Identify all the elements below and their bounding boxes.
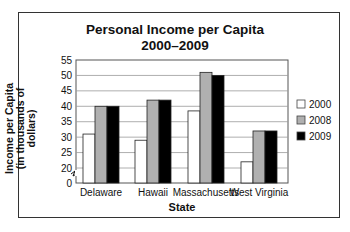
bar-massachusetts-2008: [200, 72, 212, 183]
bar-massachusetts-2000: [188, 111, 200, 183]
bar-hawaii-2008: [147, 100, 159, 183]
y-tick-label: 30: [61, 132, 73, 143]
y-tick-label: 0: [66, 178, 72, 189]
legend-swatch-2000: [297, 100, 305, 108]
legend-swatch-2009: [297, 132, 305, 140]
bar-west-virginia-2009: [265, 131, 277, 183]
y-tick-label: 25: [61, 147, 73, 158]
y-tick-label: 20: [61, 163, 73, 174]
y-tick-label: 55: [61, 55, 73, 66]
x-tick-label: Hawaii: [138, 187, 168, 198]
bar-hawaii-2009: [159, 100, 171, 183]
y-tick-label: 35: [61, 116, 73, 127]
x-axis-title: State: [169, 201, 196, 213]
axis-break-gap: [75, 170, 78, 176]
bar-hawaii-2000: [135, 140, 147, 183]
bar-delaware-2008: [95, 106, 107, 183]
legend-label-2000: 2000: [309, 99, 332, 110]
bar-delaware-2000: [83, 134, 95, 183]
y-tick-label: 40: [61, 101, 73, 112]
legend-label-2008: 2008: [309, 115, 332, 126]
bar-massachusetts-2009: [212, 75, 224, 183]
y-tick-label: 50: [61, 70, 73, 81]
bar-delaware-2009: [107, 106, 119, 183]
y-tick-label: 45: [61, 85, 73, 96]
legend-swatch-2008: [297, 116, 305, 124]
bar-chart: 02025303540455055DelawareHawaiiMassachus…: [0, 0, 350, 232]
bar-west-virginia-2008: [253, 131, 265, 183]
x-tick-label: Delaware: [80, 187, 123, 198]
x-tick-label: West Virginia: [230, 187, 289, 198]
legend-label-2009: 2009: [309, 131, 332, 142]
bar-west-virginia-2000: [241, 162, 253, 183]
